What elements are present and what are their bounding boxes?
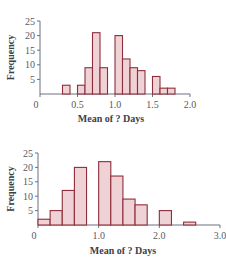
y-tick-label: 15: [23, 176, 33, 187]
x-tick-label: 3.0: [214, 230, 226, 241]
y-axis-title: Frequency: [5, 166, 16, 211]
y-tick-label: 15: [25, 45, 35, 56]
histogram-bar: [78, 85, 86, 94]
y-tick-label: 20: [25, 30, 35, 41]
bars: [38, 162, 196, 225]
histogram-top-plot: 51015202500.51.01.52.0Mean of ? DaysFreq…: [0, 0, 226, 130]
histogram-bar: [138, 71, 146, 94]
histogram-bar: [93, 33, 101, 94]
y-tick-label: 25: [23, 148, 33, 159]
histogram-bar: [115, 36, 123, 94]
histogram-top: 51015202500.51.01.52.0Mean of ? DaysFreq…: [0, 0, 226, 130]
histogram-bottom-plot: 51015202501.02.03.0Mean of ? DaysFrequen…: [0, 135, 226, 268]
histogram-bar: [85, 68, 93, 94]
y-tick-label: 5: [28, 205, 33, 216]
histogram-bar: [62, 190, 74, 225]
histogram-bar: [168, 88, 176, 94]
histogram-bar: [74, 167, 86, 225]
histogram-bottom: 51015202501.02.03.0Mean of ? DaysFrequen…: [0, 135, 226, 268]
x-tick-label: 2.0: [153, 230, 166, 241]
x-axis-title: Mean of ? Days: [90, 245, 156, 256]
histogram-bar: [50, 211, 62, 225]
histogram-bar: [38, 219, 50, 225]
y-tick-label: 20: [23, 162, 33, 173]
histogram-bar: [130, 68, 138, 94]
histogram-bar: [135, 205, 147, 225]
histogram-bar: [160, 88, 168, 94]
x-tick-label: 2.0: [184, 99, 197, 110]
histogram-bar: [123, 59, 131, 94]
bars: [63, 33, 176, 94]
histogram-bar: [159, 211, 171, 225]
x-tick-label: 0: [32, 230, 37, 241]
y-tick-label: 10: [25, 59, 35, 70]
histogram-bar: [100, 68, 108, 94]
histogram-bar: [99, 162, 111, 225]
histogram-bar: [111, 176, 123, 225]
histogram-bar: [123, 199, 135, 225]
histogram-bar: [63, 85, 71, 94]
x-tick-label: 1.5: [146, 99, 159, 110]
histogram-bar: [153, 76, 161, 94]
x-tick-label: 1.0: [109, 99, 122, 110]
x-axis-title: Mean of ? Days: [78, 113, 144, 124]
x-tick-label: 1.0: [92, 230, 105, 241]
x-tick-label: 0: [34, 99, 39, 110]
y-tick-label: 5: [30, 74, 35, 85]
y-tick-label: 10: [23, 191, 33, 202]
x-tick-label: 0.5: [71, 99, 84, 110]
y-tick-label: 25: [25, 16, 35, 27]
y-axis-title: Frequency: [5, 35, 16, 80]
histogram-bar: [184, 222, 196, 225]
